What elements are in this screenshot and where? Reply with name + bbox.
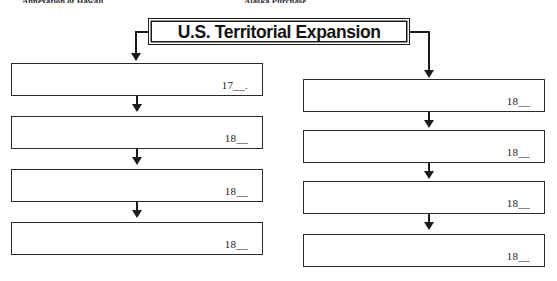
diagram-title-text: U.S. Territorial Expansion [178,21,381,43]
arrow-title-to-left-box1 [131,53,141,61]
arrow-left-2-to-3 [132,157,142,165]
right-box-4[interactable]: 18__ [303,234,545,267]
left-box-2[interactable]: 18__ [11,116,263,149]
connector-title-to-right-horizontal [408,31,430,33]
left-box-2-label: 18__ [225,132,262,148]
right-box-3-label: 18__ [507,197,544,213]
right-box-3[interactable]: 18__ [303,181,545,214]
left-box-4-label: 18__ [225,238,262,254]
left-box-1[interactable]: 17__. [11,63,263,96]
arrow-left-3-to-4 [132,210,142,218]
arrow-left-1-to-2 [132,104,142,112]
left-box-1-label: 17__. [222,79,262,95]
right-box-2[interactable]: 18__ [303,130,545,163]
arrow-right-2-to-3 [424,171,434,179]
arrow-title-to-right-box1 [424,70,434,78]
left-box-3-label: 18__ [225,185,262,201]
connector-title-to-right-vertical [428,31,430,75]
right-box-2-label: 18__ [507,146,544,162]
worksheet-page: Annexation of Hawaii Alaska Purchase U.S… [0,0,557,281]
top-caption-left: Annexation of Hawaii [22,0,103,3]
diagram-title-box: U.S. Territorial Expansion [148,18,410,45]
right-box-1-label: 18__ [507,95,544,111]
arrow-right-1-to-2 [424,120,434,128]
arrow-right-3-to-4 [424,222,434,230]
right-box-1[interactable]: 18__ [303,79,545,112]
left-box-3[interactable]: 18__ [11,169,263,202]
top-caption-right: Alaska Purchase [244,0,306,3]
right-box-4-label: 18__ [507,250,544,266]
left-box-4[interactable]: 18__ [11,222,263,255]
